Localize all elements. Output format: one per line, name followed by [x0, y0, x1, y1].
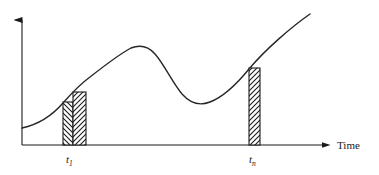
bar-t1-left	[63, 102, 73, 145]
axis-label-group: Time	[337, 139, 360, 151]
bar-tn	[249, 68, 260, 145]
time-series-figure: t1 tn Time	[0, 0, 379, 175]
tick-labels-group: t1 tn	[66, 153, 256, 168]
figure-root: t1 tn Time	[0, 0, 379, 175]
tick-label-t1-subscript: 1	[69, 159, 73, 168]
sample-bars-group	[63, 68, 260, 145]
tick-label-tn: tn	[249, 153, 256, 168]
tick-label-tn-subscript: n	[252, 159, 256, 168]
x-axis-label: Time	[337, 139, 360, 151]
bar-t1-right	[73, 92, 86, 145]
tick-label-t1: t1	[66, 153, 73, 168]
